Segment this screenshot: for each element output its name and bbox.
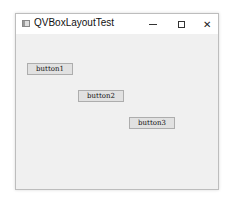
button2[interactable]: button2 <box>78 90 124 102</box>
close-button[interactable]: ✕ <box>194 14 220 34</box>
maximize-icon <box>178 21 185 28</box>
button1[interactable]: button1 <box>27 63 73 75</box>
minimize-icon <box>149 24 157 25</box>
maximize-button[interactable] <box>168 14 194 34</box>
title-bar[interactable]: QVBoxLayoutTest ✕ <box>16 14 218 34</box>
close-icon: ✕ <box>203 19 211 30</box>
minimize-button[interactable] <box>140 14 166 34</box>
window-title: QVBoxLayoutTest <box>34 17 114 28</box>
button3[interactable]: button3 <box>129 117 175 129</box>
app-icon <box>22 20 30 27</box>
client-area: button1 button2 button3 <box>16 34 218 189</box>
app-window: QVBoxLayoutTest ✕ button1 button2 button… <box>15 13 219 190</box>
